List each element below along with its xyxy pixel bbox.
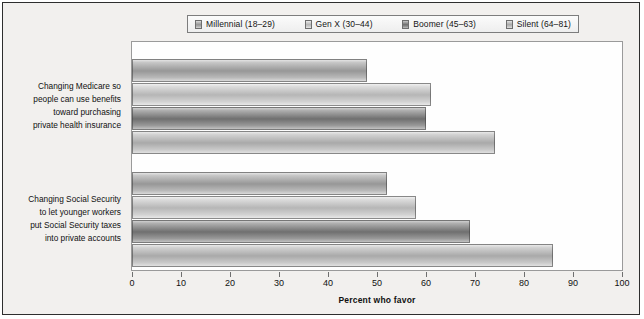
x-tick-label: 20 [225, 278, 235, 288]
x-tick-mark [426, 272, 427, 277]
legend-swatch-icon [506, 20, 513, 29]
x-tick-label: 40 [323, 278, 333, 288]
bar-1-1 [132, 196, 416, 219]
x-tick-label: 0 [129, 278, 134, 288]
x-tick-mark [279, 272, 280, 277]
legend-item-label: Silent (64–81) [517, 19, 571, 29]
category-label-line: people can use benefits [3, 93, 121, 106]
legend-item-label: Millennial (18–29) [206, 19, 275, 29]
x-tick-label: 50 [372, 278, 382, 288]
plot-area [131, 41, 623, 271]
x-axis: 0102030405060708090100 [131, 272, 623, 296]
category-label-0: Changing Medicare sopeople can use benef… [3, 80, 121, 132]
x-tick-mark [573, 272, 574, 277]
bar-1-0 [132, 172, 387, 195]
x-tick-mark [622, 272, 623, 277]
x-tick-label: 100 [614, 278, 629, 288]
category-label-line: private health insurance [3, 119, 121, 132]
x-tick-mark [230, 272, 231, 277]
bar-1-2 [132, 220, 470, 243]
x-tick-label: 80 [519, 278, 529, 288]
bar-0-2 [132, 107, 426, 130]
legend-swatch-icon [402, 20, 409, 29]
legend-item-label: Gen X (30–44) [316, 19, 373, 29]
legend-item-0[interactable]: Millennial (18–29) [195, 19, 275, 29]
bar-0-1 [132, 83, 431, 106]
x-axis-title: Percent who favor [131, 295, 623, 305]
category-label-line: into private accounts [3, 232, 121, 245]
x-tick-label: 60 [421, 278, 431, 288]
legend-swatch-icon [305, 20, 312, 29]
bar-0-0 [132, 59, 367, 82]
legend-item-3[interactable]: Silent (64–81) [506, 19, 571, 29]
bar-0-3 [132, 131, 495, 154]
x-tick-label: 70 [470, 278, 480, 288]
bar-1-3 [132, 244, 553, 267]
category-label-line: Changing Social Security [3, 193, 121, 206]
chart-legend: Millennial (18–29)Gen X (30–44)Boomer (4… [187, 15, 579, 33]
category-label-line: to let younger workers [3, 206, 121, 219]
x-tick-label: 90 [568, 278, 578, 288]
category-label-line: toward purchasing [3, 106, 121, 119]
x-tick-mark [132, 272, 133, 277]
category-label-line: Changing Medicare so [3, 80, 121, 93]
x-tick-mark [377, 272, 378, 277]
legend-item-2[interactable]: Boomer (45–63) [402, 19, 476, 29]
x-tick-label: 10 [176, 278, 186, 288]
legend-item-1[interactable]: Gen X (30–44) [305, 19, 373, 29]
category-label-1: Changing Social Securityto let younger w… [3, 193, 121, 245]
x-tick-mark [181, 272, 182, 277]
x-tick-mark [328, 272, 329, 277]
x-tick-mark [475, 272, 476, 277]
x-tick-mark [524, 272, 525, 277]
legend-swatch-icon [195, 20, 202, 29]
x-tick-label: 30 [274, 278, 284, 288]
legend-item-label: Boomer (45–63) [413, 19, 476, 29]
category-label-line: put Social Security taxes [3, 219, 121, 232]
chart-panel: Millennial (18–29)Gen X (30–44)Boomer (4… [2, 2, 640, 315]
